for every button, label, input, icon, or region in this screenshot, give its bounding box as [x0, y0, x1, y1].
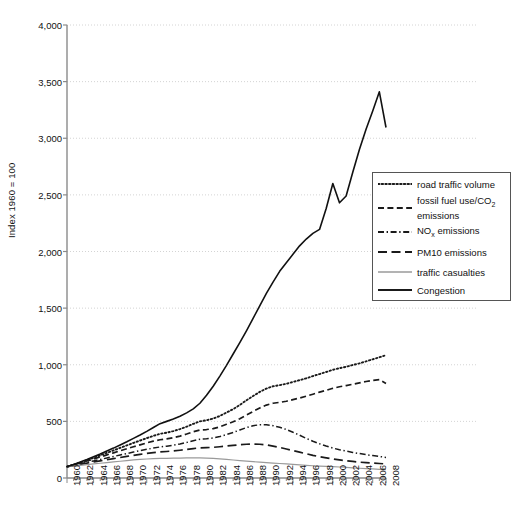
legend-label: PM10 emissions	[417, 247, 487, 258]
legend-item[interactable]: NOx emissions	[373, 225, 512, 239]
series-line-1	[67, 380, 386, 467]
legend-item[interactable]: Congestion	[373, 283, 512, 297]
legend-label-subscript: 2	[491, 201, 495, 208]
legend-line-swatch	[378, 246, 412, 258]
legend-item[interactable]: road traffic volume	[373, 177, 512, 191]
legend-line-swatch	[378, 178, 412, 190]
chart-container: Index 1960 = 100 05001,0001,5002,0002,50…	[0, 0, 515, 527]
x-axis-tick-label: 2008	[390, 465, 401, 486]
legend-label: traffic casualties	[417, 267, 485, 278]
x-axis-tick-label: 1966	[111, 465, 122, 486]
x-axis-tick-label: 1974	[164, 465, 175, 486]
x-axis-tick-label: 1994	[297, 465, 308, 486]
legend-label: fossil fuel use/CO2emissions	[417, 195, 495, 221]
legend-label-line1: Congestion	[417, 285, 465, 296]
x-axis-tick-label: 1962	[84, 465, 95, 486]
x-axis-tick-label: 1986	[244, 465, 255, 486]
x-axis-tick-label: 1976	[177, 465, 188, 486]
legend-label-line2: emissions	[417, 210, 495, 221]
legend-label: Congestion	[417, 285, 465, 296]
y-axis-tick-label: 500	[22, 416, 62, 427]
legend-item[interactable]: traffic casualties	[373, 265, 512, 279]
y-axis-tick-label: 0	[22, 473, 62, 484]
x-axis-tick-label: 2002	[350, 465, 361, 486]
x-axis-tick-label: 1964	[98, 465, 109, 486]
legend-label-line1: fossil fuel use/CO	[417, 195, 491, 206]
legend-label-line1: road traffic volume	[417, 179, 495, 190]
legend-item[interactable]: fossil fuel use/CO2emissions	[373, 195, 512, 221]
legend-line-swatch	[378, 266, 412, 278]
chart-legend: road traffic volumefossil fuel use/CO2em…	[372, 172, 511, 301]
x-axis-tick-label: 1998	[324, 465, 335, 486]
x-axis-tick-label: 1982	[217, 465, 228, 486]
legend-label-line2: emissions	[435, 225, 480, 236]
y-axis-tick-label: 2,000	[22, 246, 62, 257]
legend-label-line1: NO	[417, 225, 431, 236]
y-axis-title: Index 1960 = 100	[6, 118, 17, 238]
x-axis-tick-label: 2004	[363, 465, 374, 486]
legend-item[interactable]: PM10 emissions	[373, 245, 512, 259]
y-axis-tick-label: 1,000	[22, 359, 62, 370]
legend-label: NOx emissions	[417, 225, 480, 240]
legend-line-swatch	[378, 284, 412, 296]
y-axis-tick-label: 3,000	[22, 133, 62, 144]
x-axis-tick-label: 2000	[337, 465, 348, 486]
x-axis-tick-label: 1970	[137, 465, 148, 486]
y-axis-tick-label: 1,500	[22, 303, 62, 314]
legend-line-swatch	[378, 226, 412, 238]
x-axis-tick-label: 1960	[71, 465, 82, 486]
x-axis-tick-label: 1980	[204, 465, 215, 486]
y-axis-tick-label: 3,500	[22, 76, 62, 87]
y-axis-tick-label: 2,500	[22, 189, 62, 200]
x-axis-tick-label: 1988	[257, 465, 268, 486]
x-axis-tick-label: 1968	[124, 465, 135, 486]
legend-line-swatch	[378, 202, 412, 214]
x-axis-tick-label: 1972	[151, 465, 162, 486]
x-axis-tick-label: 1992	[284, 465, 295, 486]
legend-label-line1: traffic casualties	[417, 267, 485, 278]
x-axis-tick-label: 1978	[191, 465, 202, 486]
legend-label-line1: PM10 emissions	[417, 247, 487, 258]
y-axis-tick-label: 4,000	[22, 20, 62, 31]
legend-label: road traffic volume	[417, 179, 495, 190]
x-axis-tick-label: 2006	[377, 465, 388, 486]
x-axis-tick-label: 1984	[231, 465, 242, 486]
x-axis-tick-label: 1996	[310, 465, 321, 486]
series-line-5	[67, 92, 386, 467]
x-axis-tick-label: 1990	[270, 465, 281, 486]
